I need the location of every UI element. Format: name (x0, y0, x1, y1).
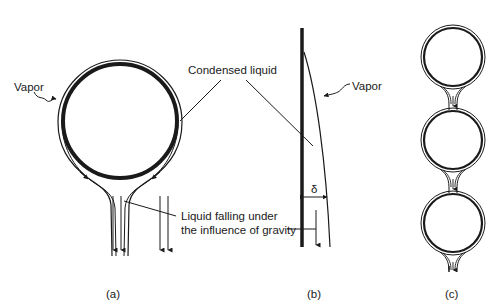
film-inner-line (62, 122, 116, 256)
caption-c: (c) (445, 287, 458, 301)
caption-a: (a) (106, 287, 120, 301)
label-condensed-liquid: Condensed liquid (188, 63, 277, 77)
tube-wall (63, 64, 177, 178)
panel-a-tube (58, 60, 182, 256)
panel-c-tube-bank (421, 25, 485, 272)
condensation-diagram (0, 0, 503, 306)
panel-b-plate (287, 28, 350, 247)
label-liquid-falling-line2: the influence of gravity (181, 223, 296, 237)
film-profile (304, 52, 330, 247)
label-vapor-b: Vapor (352, 79, 382, 93)
label-delta: δ (311, 182, 317, 196)
label-vapor-a: Vapor (14, 80, 44, 94)
falling-liquid-arrows (113, 196, 168, 250)
caption-b: (b) (307, 287, 321, 301)
label-liquid-falling-line1: Liquid falling under (181, 209, 278, 223)
